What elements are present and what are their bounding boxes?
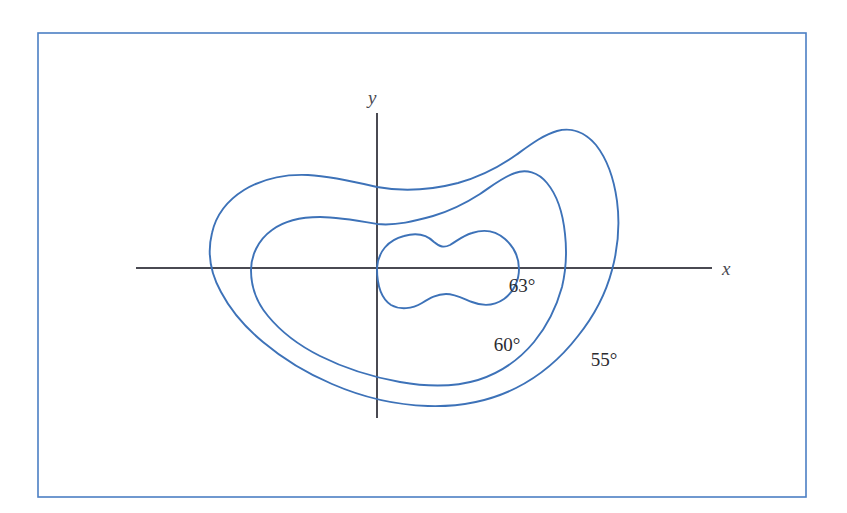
contour-label-55: 55°: [591, 349, 618, 370]
contour-figure: x y 63° 60° 55°: [0, 0, 847, 513]
contour-label-60: 60°: [494, 334, 521, 355]
contour-label-63: 63°: [509, 275, 536, 296]
x-axis-label: x: [721, 258, 731, 279]
contour-curve-63: [377, 231, 519, 308]
contour-plot-canvas: x y 63° 60° 55°: [0, 0, 847, 513]
figure-border: [38, 33, 806, 497]
y-axis-label: y: [366, 87, 377, 108]
